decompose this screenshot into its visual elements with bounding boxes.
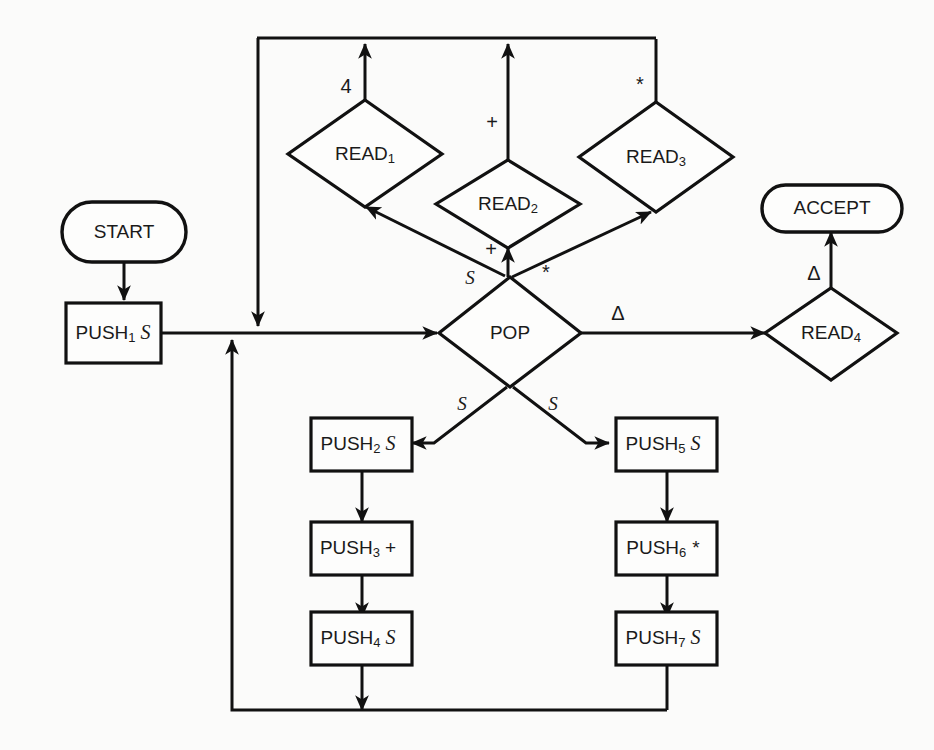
flowchart-diagram: START PUSH1S READ1 READ2 READ3 READ4 POP xyxy=(0,0,934,750)
edge-label-read4-to-accept: Δ xyxy=(807,262,820,284)
edge-return-bus xyxy=(232,340,667,710)
edge-label-read3-top: * xyxy=(636,73,644,95)
node-read2-label: READ2 xyxy=(478,193,538,216)
edge-label-pop-to-read2: + xyxy=(485,238,497,260)
node-push3-label: PUSH3+ xyxy=(320,537,396,560)
node-accept-label: ACCEPT xyxy=(793,197,870,218)
node-read4-label: READ4 xyxy=(801,322,861,345)
edge-label-pop-to-read3: * xyxy=(542,261,550,283)
edge-label-read2-top: + xyxy=(486,111,498,133)
node-read3-label: READ3 xyxy=(626,146,686,169)
node-read1-label: READ1 xyxy=(335,143,395,166)
edge-label-pop-to-push2: S xyxy=(457,393,467,414)
flowchart-canvas: START PUSH1S READ1 READ2 READ3 READ4 POP xyxy=(0,0,934,750)
edge-label-pop-to-read4: Δ xyxy=(611,302,624,324)
edge-label-pop-to-push5: S xyxy=(548,393,558,414)
edge-pop-to-push5 xyxy=(513,387,609,443)
edge-label-pop-to-read1: S xyxy=(465,267,475,288)
node-group xyxy=(62,100,902,665)
edge-group xyxy=(124,38,831,710)
edge-label-read1-top: 4 xyxy=(340,75,351,97)
node-pop-label: POP xyxy=(490,322,530,343)
node-start-label: START xyxy=(94,221,155,242)
